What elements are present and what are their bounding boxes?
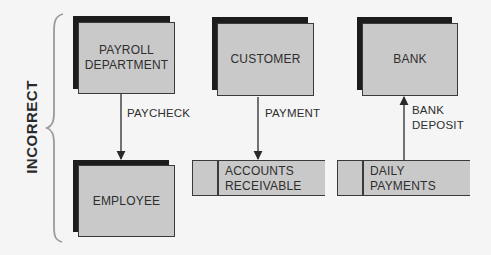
entity-bank: BANK xyxy=(362,23,458,96)
flow-label-line: BANK xyxy=(412,103,464,118)
datastore-accounts-receivable: ACCOUNTS RECEIVABLE xyxy=(192,160,325,196)
entity-payroll-department: PAYROLL DEPARTMENT xyxy=(78,22,175,94)
datastore-label: RECEIVABLE xyxy=(225,179,301,194)
entity-label: DEPARTMENT xyxy=(85,58,169,73)
flow-label-paycheck: PAYCHECK xyxy=(127,106,190,121)
datastore-label: PAYMENTS xyxy=(370,179,436,194)
datastore-label: ACCOUNTS xyxy=(225,164,301,179)
entity-customer: CUSTOMER xyxy=(217,23,314,96)
flow-label-line: DEPOSIT xyxy=(412,118,464,133)
dfd-diagram: INCORRECT PAYROLL DEPARTMENT CUSTOMER BA… xyxy=(0,0,491,255)
datastore-daily-payments: DAILY PAYMENTS xyxy=(337,160,470,196)
curly-brace-icon xyxy=(47,14,63,242)
entity-label: BANK xyxy=(393,52,426,67)
entity-employee: EMPLOYEE xyxy=(78,165,175,237)
entity-label: PAYROLL xyxy=(85,43,169,58)
entity-label: EMPLOYEE xyxy=(93,194,161,209)
datastore-label: DAILY xyxy=(370,164,436,179)
datastore-divider xyxy=(217,161,219,195)
entity-label: CUSTOMER xyxy=(230,52,300,67)
flow-label-bank-deposit: BANK DEPOSIT xyxy=(412,103,464,133)
datastore-divider xyxy=(362,161,364,195)
flow-label-payment: PAYMENT xyxy=(265,106,320,121)
